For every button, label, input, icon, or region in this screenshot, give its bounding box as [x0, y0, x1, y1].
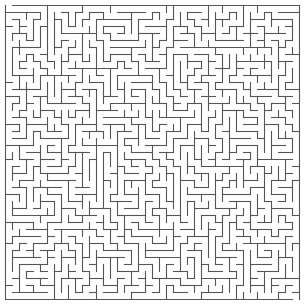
maze-canvas — [0, 0, 308, 308]
maze — [0, 0, 308, 308]
maze-background — [0, 0, 308, 308]
